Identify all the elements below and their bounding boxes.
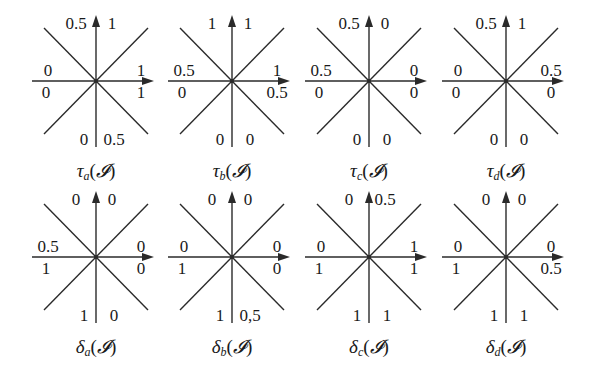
panel-caption-tau_d: τd(𝓘) [487, 160, 525, 186]
caption-symbol: δ [76, 336, 85, 357]
caption-argument: 𝓘 [369, 159, 382, 181]
panel-delta_c-axes [305, 191, 427, 323]
close-paren: ) [519, 160, 525, 181]
y-arrowhead-icon [365, 191, 373, 203]
value-label-left-lower: 1 [452, 260, 461, 277]
caption-symbol: δ [486, 336, 495, 357]
y-arrowhead-icon [365, 15, 373, 27]
panel-delta_d-axes [442, 191, 564, 323]
value-label-right-upper: 0 [137, 238, 146, 255]
panel-delta_b-axes [168, 191, 290, 323]
panel-tau_b-axes [168, 15, 290, 147]
value-label-left-lower: 1 [42, 260, 51, 277]
value-label-right-upper: 1 [273, 62, 282, 79]
value-label-right-lower: 0.5 [540, 260, 561, 277]
value-label-right-lower: 1 [410, 260, 419, 277]
value-label-right-upper: 0 [273, 238, 282, 255]
panel-caption-delta_c: δc(𝓘) [349, 336, 389, 362]
value-label-top-right: 0 [108, 191, 117, 208]
value-label-top-left: 0 [208, 191, 217, 208]
origin-dot [504, 255, 508, 259]
value-label-bottom-right: 0.5 [103, 131, 124, 148]
value-label-right-lower: 0 [273, 260, 282, 277]
caption-argument: 𝓘 [506, 159, 519, 181]
value-label-right-lower: 1 [137, 84, 146, 101]
panel-caption-delta_a: δa(𝓘) [76, 336, 117, 362]
panel-tau_d-axes [442, 15, 564, 147]
value-label-top-right: 0 [381, 15, 390, 32]
value-label-bottom-right: 1 [520, 307, 529, 324]
y-arrowhead-icon [502, 15, 510, 27]
value-label-bottom-left: 0 [80, 131, 89, 148]
caption-argument: 𝓘 [507, 335, 520, 357]
close-paren: ) [109, 160, 115, 181]
value-label-left-lower: 0 [178, 84, 187, 101]
value-label-right-upper: 0 [410, 62, 419, 79]
value-label-top-right: 0.5 [374, 191, 395, 208]
diagram-figure: 0.51110.5000τa(𝓘)1110.50000.5τb(𝓘)0.5000… [0, 0, 598, 387]
caption-argument: 𝓘 [370, 335, 383, 357]
value-label-bottom-left: 1 [353, 307, 362, 324]
origin-dot [230, 79, 234, 83]
value-label-right-upper: 0 [547, 238, 556, 255]
panel-caption-tau_a: τa(𝓘) [77, 160, 115, 186]
value-label-top-left: 0.5 [65, 15, 86, 32]
caption-symbol: δ [349, 336, 358, 357]
value-label-bottom-right: 1 [383, 307, 392, 324]
caption-symbol: τ [213, 160, 220, 181]
value-label-right-upper: 0.5 [540, 62, 561, 79]
panel-tau_c-axes [305, 15, 427, 147]
value-label-left-upper: 0 [454, 62, 463, 79]
value-label-left-lower: 0 [315, 84, 324, 101]
caption-symbol: δ [212, 336, 221, 357]
value-label-top-left: 0 [345, 191, 354, 208]
value-label-left-upper: 0.5 [37, 238, 58, 255]
value-label-top-left: 0 [482, 191, 491, 208]
panel-caption-tau_c: τc(𝓘) [350, 160, 388, 186]
caption-argument: 𝓘 [232, 159, 245, 181]
panel-delta_a-axes [32, 191, 154, 323]
y-arrowhead-icon [92, 15, 100, 27]
value-label-right-lower: 0.5 [266, 84, 287, 101]
value-label-left-lower: 0 [42, 84, 51, 101]
value-label-right-upper: 1 [137, 62, 146, 79]
y-arrowhead-icon [92, 191, 100, 203]
value-label-top-right: 1 [244, 15, 253, 32]
close-paren: ) [383, 336, 389, 357]
value-label-top-right: 0 [244, 191, 253, 208]
value-label-left-upper: 0.5 [310, 62, 331, 79]
value-label-top-right: 1 [108, 15, 117, 32]
value-label-bottom-left: 0 [353, 131, 362, 148]
panel-caption-delta_b: δb(𝓘) [212, 336, 253, 362]
close-paren: ) [110, 336, 116, 357]
value-label-left-upper: 0 [317, 238, 326, 255]
close-paren: ) [382, 160, 388, 181]
value-label-bottom-right: 0 [520, 131, 529, 148]
panel-caption-tau_b: τb(𝓘) [213, 160, 251, 186]
value-label-bottom-right: 0,5 [239, 307, 260, 324]
close-paren: ) [520, 336, 526, 357]
close-paren: ) [246, 336, 252, 357]
caption-symbol: τ [77, 160, 84, 181]
value-label-top-left: 0 [72, 191, 81, 208]
value-label-bottom-left: 1 [80, 307, 89, 324]
y-arrowhead-icon [502, 191, 510, 203]
value-label-left-upper: 0 [180, 238, 189, 255]
origin-dot [367, 255, 371, 259]
panel-tau_a-axes [32, 15, 154, 147]
value-label-left-lower: 1 [178, 260, 187, 277]
caption-symbol: τ [350, 160, 357, 181]
value-label-bottom-right: 0 [110, 307, 119, 324]
origin-dot [94, 79, 98, 83]
value-label-bottom-right: 0 [383, 131, 392, 148]
value-label-bottom-left: 1 [490, 307, 499, 324]
origin-dot [230, 255, 234, 259]
value-label-left-lower: 0 [452, 84, 461, 101]
caption-argument: 𝓘 [233, 335, 246, 357]
value-label-left-upper: 0 [454, 238, 463, 255]
value-label-left-upper: 0 [44, 62, 53, 79]
value-label-top-left: 0.5 [475, 15, 496, 32]
value-label-top-left: 0.5 [338, 15, 359, 32]
value-label-bottom-left: 0 [216, 131, 225, 148]
value-label-left-upper: 0.5 [173, 62, 194, 79]
